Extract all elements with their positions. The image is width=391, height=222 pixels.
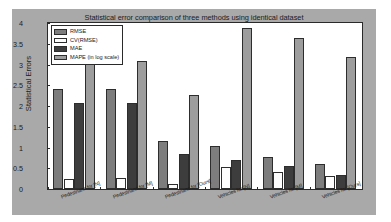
legend-item: MAE: [54, 45, 119, 53]
legend-label-mape: MAPE (in log scale): [70, 55, 119, 61]
bar-mape-group-3: [189, 95, 199, 189]
bar-rmse-group-5: [263, 157, 273, 189]
chart-title: Statistical error comparison of three me…: [12, 13, 376, 22]
legend-item: MAPE (in log scale): [54, 53, 119, 61]
y-tick-label: 3.5: [0, 39, 23, 48]
y-tick-label: 1: [0, 143, 23, 152]
y-tick-label: 2.5: [0, 81, 23, 90]
y-tick-label: 3: [0, 60, 23, 69]
y-tick-label: 4: [0, 19, 23, 28]
legend-item: RMSE: [54, 28, 119, 36]
bar-cv-group-4: [221, 167, 231, 189]
chart-legend: RMSE CV(RMSE) MAE MAPE (in log scale): [51, 25, 123, 65]
legend-swatch-rmse: [54, 29, 67, 35]
bar-mape-group-6: [346, 57, 356, 189]
bar-rmse-group-3: [158, 141, 168, 189]
legend-label-rmse: RMSE: [70, 29, 86, 35]
y-tick-label: 1.5: [0, 122, 23, 131]
bar-mae-group-1: [74, 103, 84, 189]
bar-mape-group-5: [294, 38, 304, 189]
legend-label-cvrmse: CV(RMSE): [70, 38, 98, 44]
bar-mape-group-4: [242, 28, 252, 189]
legend-swatch-mae: [54, 46, 67, 52]
y-axis-label: Statistical Errors: [24, 29, 33, 139]
bar-rmse-group-6: [315, 164, 325, 189]
bar-cv-group-1: [64, 179, 74, 189]
legend-swatch-cvrmse: [54, 38, 67, 44]
bar-cv-group-6: [325, 176, 335, 189]
legend-label-mae: MAE: [70, 46, 82, 52]
y-tick-label: 2: [0, 102, 23, 111]
legend-item: CV(RMSE): [54, 36, 119, 44]
bar-mae-group-2: [127, 103, 137, 189]
bar-mae-group-3: [179, 154, 189, 189]
bar-cv-group-2: [116, 178, 126, 189]
y-tick-label: 0: [0, 185, 23, 194]
bar-mape-group-2: [137, 61, 147, 189]
y-tick-label: 0.5: [0, 164, 23, 173]
bar-mape-group-1: [85, 61, 95, 189]
bar-rmse-group-1: [53, 89, 63, 189]
bar-rmse-group-2: [106, 89, 116, 189]
bar-cv-group-5: [273, 172, 283, 189]
chart-figure: Statistical error comparison of three me…: [12, 9, 376, 215]
legend-swatch-mape: [54, 55, 67, 61]
bar-rmse-group-4: [210, 146, 220, 189]
x-tick-mark: [362, 187, 363, 190]
